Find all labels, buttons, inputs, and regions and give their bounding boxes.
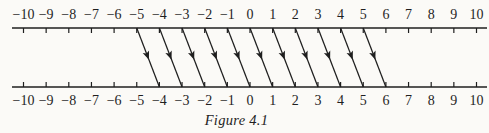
top-number-line-tick-label: −5	[129, 7, 144, 22]
top-number-line-tick-label: 9	[450, 7, 457, 22]
bottom-number-line-tick-label: 0	[247, 93, 254, 108]
top-number-line-tick-label: −3	[175, 7, 190, 22]
bottom-number-line-tick-label: −10	[13, 93, 35, 108]
top-number-line-tick-label: 5	[360, 7, 367, 22]
bottom-number-line-tick-label: −2	[197, 93, 212, 108]
bottom-number-line-tick-label: −1	[220, 93, 235, 108]
top-number-line-tick-label: 10	[470, 7, 484, 22]
bottom-number-line-tick-label: −3	[175, 93, 190, 108]
top-number-line-tick-label: −1	[220, 7, 235, 22]
top-number-line-tick-label: −6	[107, 7, 122, 22]
number-line-mapping-figure: −10−9−8−7−6−5−4−3−2−1012345678910−10−9−8…	[0, 0, 489, 133]
arrowhead-icon	[347, 51, 356, 61]
arrowhead-icon	[256, 51, 265, 61]
top-number-line-tick-label: 2	[292, 7, 299, 22]
bottom-number-line-tick-label: −4	[152, 93, 167, 108]
bottom-number-line-tick-label: −5	[129, 93, 144, 108]
arrowhead-icon	[369, 51, 378, 61]
top-number-line-tick-label: −4	[152, 7, 167, 22]
arrowhead-icon	[211, 51, 220, 61]
top-number-line-tick-label: 8	[428, 7, 435, 22]
bottom-number-line-tick-label: −6	[107, 93, 122, 108]
top-number-line-tick-label: −9	[39, 7, 54, 22]
top-number-line-tick-label: −2	[197, 7, 212, 22]
arrowhead-icon	[165, 51, 174, 61]
top-number-line-tick-label: 4	[337, 7, 344, 22]
bottom-number-line-tick-label: 9	[450, 93, 457, 108]
arrowhead-icon	[279, 51, 288, 61]
arrowhead-icon	[143, 51, 152, 61]
arrowhead-icon	[324, 51, 333, 61]
top-number-line-tick-label: −7	[84, 7, 99, 22]
bottom-number-line-tick-label: 3	[314, 93, 321, 108]
bottom-number-line-tick-label: 10	[470, 93, 484, 108]
arrowhead-icon	[233, 51, 242, 61]
figure-caption: Figure 4.1	[0, 112, 473, 129]
bottom-number-line-tick-label: −8	[61, 93, 76, 108]
top-number-line-tick-label: 1	[269, 7, 276, 22]
bottom-number-line-tick-label: 4	[337, 93, 344, 108]
top-number-line-tick-label: 6	[382, 7, 389, 22]
bottom-number-line-tick-label: 1	[269, 93, 276, 108]
bottom-number-line-tick-label: −9	[39, 93, 54, 108]
bottom-number-line-tick-label: 5	[360, 93, 367, 108]
bottom-number-line-tick-label: 7	[405, 93, 412, 108]
arrowhead-icon	[188, 51, 197, 61]
top-number-line-tick-label: 7	[405, 7, 412, 22]
top-number-line-tick-label: −8	[61, 7, 76, 22]
bottom-number-line-tick-label: 6	[382, 93, 389, 108]
top-number-line-tick-label: −10	[13, 7, 35, 22]
top-number-line-tick-label: 0	[247, 7, 254, 22]
bottom-number-line-tick-label: −7	[84, 93, 99, 108]
bottom-number-line-tick-label: 2	[292, 93, 299, 108]
top-number-line-tick-label: 3	[314, 7, 321, 22]
arrowhead-icon	[301, 51, 310, 61]
bottom-number-line-tick-label: 8	[428, 93, 435, 108]
